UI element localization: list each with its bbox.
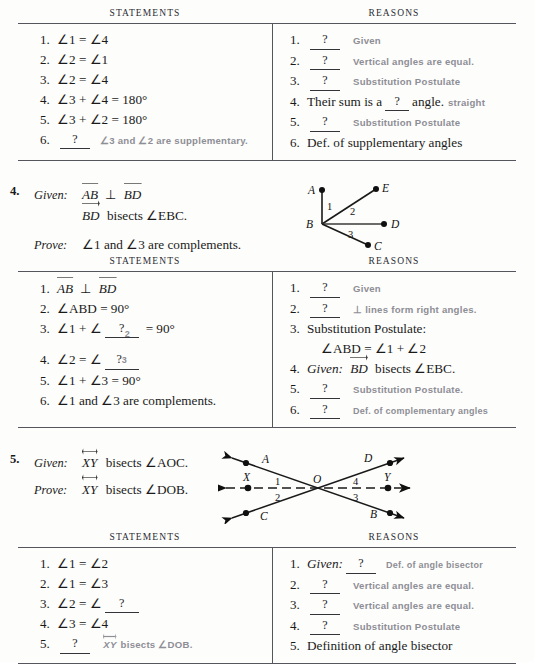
row-number: 4.	[290, 360, 307, 379]
perp-symbol: ⊥	[80, 281, 91, 296]
row-number: 1.	[40, 280, 57, 299]
reasons-column: 1.?Given 2.?Vertical angles are equal. 3…	[272, 24, 516, 160]
answer-blank[interactable]: ?	[105, 595, 139, 614]
row-text: ?Substitution Postulate	[307, 616, 512, 637]
answer-blank[interactable]: ?	[310, 401, 340, 420]
svg-text:X: X	[242, 471, 251, 483]
row-number: 1.	[290, 31, 307, 50]
answer-blank[interactable]: ?	[310, 300, 340, 319]
prove-row: Prove: ∠1 and ∠3 are complements.	[34, 235, 300, 255]
answer-blank[interactable]: ?	[310, 52, 340, 71]
table-bottom-rule	[18, 427, 516, 428]
proof-table-2: STATEMENTS REASONS 1. AB ⊥ BD 2.∠ABD = 9…	[18, 254, 516, 428]
row-text: ? XYbisects ∠DOB.	[57, 634, 266, 655]
answer-blank[interactable]: ?	[385, 93, 409, 112]
row-number: 4.	[290, 93, 307, 112]
row-text: ?Vertical angles are equal.	[307, 51, 512, 72]
svg-text:C: C	[260, 510, 268, 522]
table-row: 2.∠2 = ∠1	[40, 50, 266, 70]
table-row: 3.?Vertical angles are equal.	[290, 595, 512, 616]
row-number: 3.	[290, 72, 307, 91]
penciled-answer-rest: bisects ∠DOB.	[121, 639, 193, 650]
segment-bd: BD	[99, 278, 117, 298]
answer-blank[interactable]: ?	[346, 555, 376, 574]
svg-text:O: O	[313, 473, 322, 485]
answer-blank[interactable]: ?	[310, 72, 340, 91]
row-text: ∠2 = ∠?3	[57, 350, 266, 371]
svg-text:B: B	[306, 218, 313, 230]
reason-post-text: angle.	[412, 94, 444, 109]
row-text: Given: BD bisects ∠EBC.	[307, 358, 512, 378]
row-number: 4.	[40, 351, 57, 370]
answer-blank[interactable]: ?	[105, 320, 139, 339]
row-number: 2.	[40, 51, 57, 70]
row-text-cont: ∠ABD = ∠1 + ∠2	[307, 339, 512, 358]
column-divider	[272, 548, 273, 663]
answer-blank[interactable]: ?	[310, 617, 340, 636]
row-number: 5.	[40, 111, 57, 130]
svg-text:Y: Y	[384, 471, 392, 483]
row-text: ?Vertical angles are equal.	[307, 575, 512, 596]
table-row: 2.?Vertical angles are equal.	[290, 51, 512, 72]
table-body: 1.∠1 = ∠4 2.∠2 = ∠1 3.∠2 = ∠4 4.∠3 + ∠4 …	[18, 24, 516, 160]
problem-4-heading: 4. Given: AB ⊥ BD BD bisects ∠EBC. Prove…	[10, 184, 300, 254]
table-row: ∠ABD = ∠1 + ∠2	[290, 339, 512, 358]
diagram-intersecting-lines-at-o: A D X O Y C B 1 2 3 4	[218, 448, 418, 524]
answer-blank[interactable]: ?	[60, 635, 90, 654]
answer-blank[interactable]: ?3	[105, 351, 139, 370]
answer-blank[interactable]: ?	[60, 131, 90, 150]
table-row: 6.?∠3 and ∠2 are supplementary.	[40, 130, 266, 151]
row-text: Given:?Def. of angle bisector	[307, 554, 512, 575]
table-row: 1.∠1 = ∠4	[40, 30, 266, 50]
svg-text:E: E	[381, 182, 389, 194]
given-rest: bisects ∠AOC.	[106, 455, 188, 470]
row-number: 6.	[290, 401, 307, 420]
answer-blank[interactable]: ?	[310, 113, 340, 132]
diagram-angles-at-b: A E B D C 1 2 3	[296, 180, 446, 252]
row-number: 1.	[40, 555, 57, 574]
statements-column: 1. AB ⊥ BD 2.∠ABD = 90° 3. ∠1 + ∠?2= 90°…	[18, 272, 272, 427]
table-row: 6.Def. of supplementary angles	[290, 133, 512, 153]
row-number: 2.	[290, 576, 307, 595]
row-text: ∠3 + ∠2 = 180°	[57, 110, 266, 129]
svg-text:4: 4	[353, 476, 359, 487]
penciled-answer: Given	[353, 283, 381, 294]
penciled-answer: ⊥ lines form right angles.	[353, 304, 477, 315]
table-row: 1.Given:?Def. of angle bisector	[290, 554, 512, 575]
ray-bd: BD	[82, 205, 100, 226]
answer-blank[interactable]: ?	[310, 576, 340, 595]
table-row: 5.∠1 + ∠3 = 90°	[40, 371, 266, 391]
column-header-reasons: REASONS	[272, 256, 516, 266]
table-row: 2.?⊥ lines form right angles.	[290, 299, 512, 320]
prove-label: Prove:	[34, 483, 82, 498]
table-header-row: STATEMENTS REASONS	[18, 6, 516, 23]
row-number: 5.	[290, 113, 307, 132]
penciled-answer: ∠3 and ∠2 are supplementary.	[100, 135, 248, 146]
row-number: 4.	[40, 91, 57, 110]
row-number: 2.	[290, 300, 307, 319]
svg-text:D: D	[390, 218, 400, 230]
row-text: ∠1 + ∠3 = 90°	[57, 371, 266, 390]
column-divider	[272, 272, 273, 427]
penciled-answer: Substitution Postulate.	[353, 384, 463, 395]
table-body: 1.∠1 = ∠2 2.∠1 = ∠3 3.∠2 = ∠? 4.∠3 = ∠4 …	[18, 548, 516, 663]
given-label: Given:	[307, 556, 343, 571]
row-text: ?∠3 and ∠2 are supplementary.	[57, 130, 266, 151]
statements-column: 1.∠1 = ∠4 2.∠2 = ∠1 3.∠2 = ∠4 4.∠3 + ∠4 …	[18, 24, 272, 160]
penciled-answer: Vertical angles are equal.	[353, 580, 474, 591]
table-row: 1.?Given	[290, 30, 512, 51]
answer-blank[interactable]: ?	[310, 380, 340, 399]
table-row: 3.Substitution Postulate:	[290, 319, 512, 339]
penciled-answer: Substitution Postulate	[353, 76, 460, 87]
row-text: ∠2 = ∠?	[57, 594, 266, 615]
penciled-answer: Def. of angle bisector	[386, 560, 483, 570]
table-header-row: STATEMENTS REASONS	[18, 530, 516, 547]
answer-blank[interactable]: ?	[310, 279, 340, 298]
line-xy: XY	[82, 479, 97, 500]
answer-blank[interactable]: ?	[310, 596, 340, 615]
perp-symbol: ⊥	[105, 187, 116, 202]
line-xy: XY	[82, 452, 97, 473]
answer-blank[interactable]: ?	[310, 31, 340, 50]
table-row: 4.∠3 + ∠4 = 180°	[40, 90, 266, 110]
given-label: Given:	[307, 361, 343, 376]
